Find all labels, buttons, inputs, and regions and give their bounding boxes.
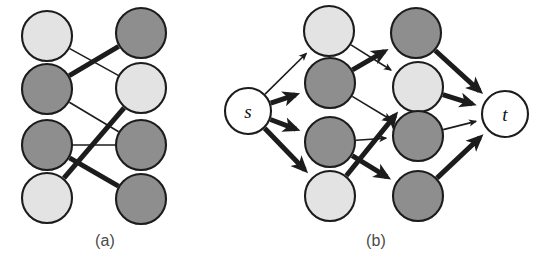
- node-circle-dark: [22, 120, 72, 170]
- figure-root: (a) st (b): [0, 0, 542, 274]
- edge-bs-to-bL2: [271, 95, 296, 103]
- edge-layer: [64, 46, 124, 186]
- edge-bL2-to-bR3: [352, 96, 390, 119]
- node-aR4: [116, 174, 166, 224]
- edge-bs-to-bL3: [270, 119, 295, 129]
- node-bt: t: [482, 91, 528, 137]
- edge-bR3-to-bt: [443, 121, 476, 129]
- node-aR2: [116, 63, 166, 113]
- node-bR2: [393, 62, 443, 112]
- node-circle-dark: [305, 58, 355, 108]
- node-circle-dark: [22, 64, 72, 114]
- edge-bR2-to-bt: [443, 95, 472, 104]
- node-aR3: [116, 120, 166, 170]
- edge-bs-to-bL1: [265, 53, 306, 94]
- node-bs: s: [225, 88, 271, 134]
- node-circle-light: [22, 11, 72, 61]
- node-aL2: [22, 64, 72, 114]
- panel-b-graph: st: [210, 0, 542, 230]
- node-bL3: [305, 117, 355, 167]
- edge-layer: [265, 45, 480, 178]
- edge-bs-to-bL4: [265, 128, 305, 169]
- node-aL1: [22, 11, 72, 61]
- node-circle-light: [116, 63, 166, 113]
- node-circle-dark: [116, 8, 166, 58]
- node-label-s: s: [244, 101, 251, 122]
- panel-b-caption: (b): [210, 232, 542, 250]
- node-bL4: [305, 171, 355, 221]
- node-label-t: t: [502, 104, 508, 125]
- panel-a-graph: [0, 0, 210, 230]
- edge-aL2-to-aR3: [69, 102, 118, 131]
- edge-bL3-to-bR3: [356, 138, 386, 140]
- node-circle-light: [22, 173, 72, 223]
- node-circle-light: [305, 171, 355, 221]
- node-circle-light: [393, 62, 443, 112]
- node-aR1: [116, 8, 166, 58]
- edge-bL2-to-bR1: [352, 51, 384, 70]
- node-bR3: [393, 111, 443, 161]
- node-circle-dark: [393, 111, 443, 161]
- node-circle-dark: [391, 8, 441, 58]
- node-aL3: [22, 120, 72, 170]
- node-bR1: [391, 8, 441, 58]
- node-circle-dark: [393, 171, 443, 221]
- node-layer: st: [225, 6, 528, 221]
- node-circle-dark: [116, 120, 166, 170]
- node-circle-dark: [116, 174, 166, 224]
- node-bR4: [393, 171, 443, 221]
- panel-a-caption: (a): [0, 232, 210, 250]
- node-circle-light: [304, 6, 354, 56]
- node-aL4: [22, 173, 72, 223]
- node-bL2: [305, 58, 355, 108]
- edge-bR4-to-bt: [437, 138, 480, 179]
- node-layer: [22, 8, 166, 224]
- node-circle-dark: [305, 117, 355, 167]
- node-bL1: [304, 6, 354, 56]
- panel-a-bipartite-matching: (a): [0, 0, 210, 274]
- panel-b-flow-network: st (b): [210, 0, 542, 274]
